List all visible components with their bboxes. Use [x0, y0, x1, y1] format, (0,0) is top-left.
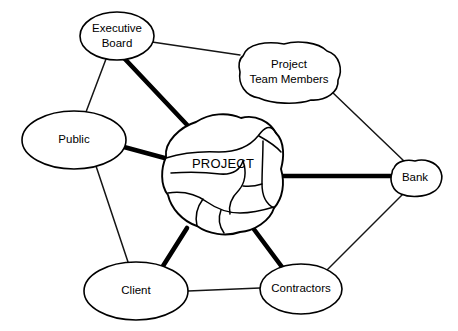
- diagram-canvas: Executive Board Project Team Members Pub…: [0, 0, 458, 331]
- link-client-to-contractors: [188, 288, 260, 291]
- node-contractors[interactable]: Contractors: [260, 264, 342, 314]
- link-project-to-contractors: [253, 228, 282, 267]
- bank-label: Bank: [402, 171, 428, 183]
- link-executive-board-to-project: [124, 58, 190, 128]
- node-layer: Executive Board Project Team Members Pub…: [22, 12, 442, 320]
- link-project-to-client: [163, 228, 187, 266]
- link-executive-board-to-public: [86, 59, 106, 112]
- public-label: Public: [58, 133, 90, 145]
- node-client[interactable]: Client: [84, 262, 188, 320]
- client-label: Client: [121, 284, 151, 296]
- executive-board-ellipse: [80, 12, 154, 60]
- executive-board-label-line-2: Board: [102, 37, 133, 49]
- executive-board-label-line-1: Executive: [92, 22, 142, 34]
- node-bank[interactable]: Bank: [391, 160, 442, 196]
- project-team-members-label-line-1: Project: [271, 58, 308, 70]
- link-executive-board-to-project-team-members: [152, 42, 240, 55]
- node-executive-board[interactable]: Executive Board: [80, 12, 154, 60]
- node-project[interactable]: PROJECT: [162, 114, 283, 234]
- link-bank-to-contractors: [327, 193, 404, 270]
- project-team-members-label-line-2: Team Members: [249, 73, 328, 85]
- stakeholder-diagram: Executive Board Project Team Members Pub…: [0, 0, 458, 331]
- link-public-to-client: [96, 166, 128, 262]
- link-project-team-members-to-bank: [331, 91, 405, 162]
- node-public[interactable]: Public: [22, 111, 126, 169]
- project-label: PROJECT: [192, 156, 254, 171]
- contractors-label: Contractors: [271, 282, 331, 294]
- node-project-team-members[interactable]: Project Team Members: [239, 42, 340, 103]
